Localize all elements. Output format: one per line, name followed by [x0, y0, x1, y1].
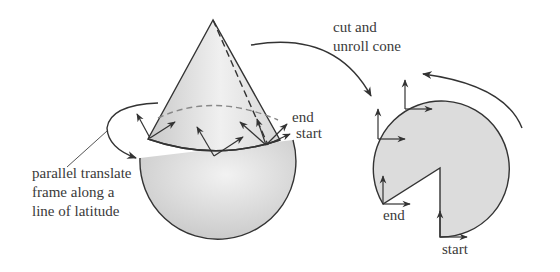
label-cut-2: unroll cone: [333, 38, 401, 54]
label-translate-1: parallel translate: [32, 165, 132, 181]
transition: cut and unroll cone: [251, 19, 401, 96]
label-start-left: start: [296, 125, 323, 141]
label-end-left: end: [292, 109, 314, 125]
sphere-and-cone: end start parallel translate frame along…: [32, 20, 323, 239]
label-translate-2: frame along a: [32, 184, 115, 200]
label-translate-3: line of latitude: [32, 203, 120, 219]
label-pointer: [67, 131, 107, 167]
sphere: [140, 140, 296, 239]
translate-loop-arrow: [107, 103, 158, 158]
label-cut-1: cut and: [333, 19, 377, 35]
unrolled-cone: end start: [373, 74, 522, 257]
label-start-right: start: [442, 241, 469, 257]
cone-unroll-diagram: end start parallel translate frame along…: [0, 0, 560, 272]
cone: [148, 20, 280, 151]
label-end-right: end: [383, 207, 405, 223]
